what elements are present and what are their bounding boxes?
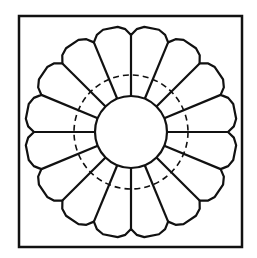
dresden-plate-diagram: [0, 0, 257, 258]
center-circle: [95, 96, 167, 168]
diagram-svg: [0, 0, 257, 258]
